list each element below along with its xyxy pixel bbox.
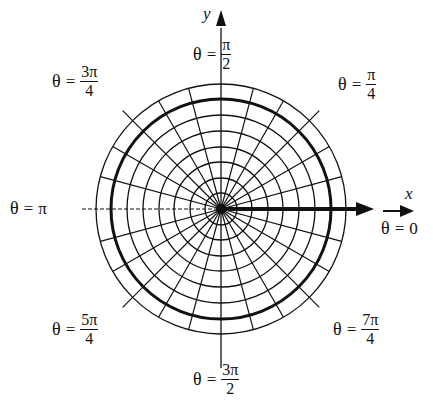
angle-label-pi-over-2: θ = π 2	[193, 37, 231, 72]
fraction: 7π 4	[361, 312, 379, 347]
radial-line	[221, 209, 342, 241]
angle-label-5pi-over-4: θ = 5π 4	[52, 312, 98, 347]
radial-line	[159, 209, 222, 317]
y-axis-label: y	[203, 4, 211, 24]
radial-line	[221, 209, 253, 330]
angle-label-3pi-over-2: θ = 3π 2	[193, 362, 239, 397]
diagonal-extension	[123, 297, 133, 307]
diagonal-extension	[309, 297, 319, 307]
radial-line	[221, 88, 253, 209]
radial-line	[221, 121, 309, 209]
angle-label-0: θ = 0	[381, 218, 418, 239]
angle-label-pi: θ = π	[10, 198, 47, 219]
polar-coordinate-diagram: y x θ = π 2 θ = 3π 4 θ = π 4 θ = π θ =	[0, 0, 433, 401]
fraction: 3π 4	[80, 64, 98, 99]
x-axis-label: x	[405, 184, 413, 204]
fraction: π 2	[221, 37, 231, 72]
fraction: 5π 4	[80, 312, 98, 347]
ray-arrow-icon	[356, 202, 374, 216]
y-axis-arrow-icon	[216, 10, 226, 26]
angle-label-3pi-over-4: θ = 3π 4	[52, 64, 98, 99]
radial-line	[221, 209, 329, 272]
radial-line	[100, 209, 221, 241]
radial-line	[159, 101, 222, 209]
radial-line	[113, 147, 221, 210]
diagonal-extension	[123, 111, 133, 121]
radial-line	[221, 209, 284, 317]
radial-line	[221, 101, 284, 209]
angle-label-pi-over-4: θ = π 4	[338, 67, 376, 102]
radial-line	[221, 209, 309, 297]
radial-line	[113, 209, 221, 272]
angle-label-7pi-over-4: θ = 7π 4	[333, 312, 379, 347]
radial-line	[221, 147, 329, 210]
fraction: π 4	[366, 67, 376, 102]
radial-line	[133, 209, 221, 297]
radial-line	[133, 121, 221, 209]
radial-line	[100, 177, 221, 209]
origin-pole	[216, 204, 226, 214]
radial-line	[189, 88, 221, 209]
radial-line	[189, 209, 221, 330]
diagonal-extension	[309, 111, 319, 121]
fraction: 3π 2	[221, 362, 239, 397]
radial-line	[221, 177, 342, 209]
x-axis-arrow-icon	[400, 205, 414, 217]
